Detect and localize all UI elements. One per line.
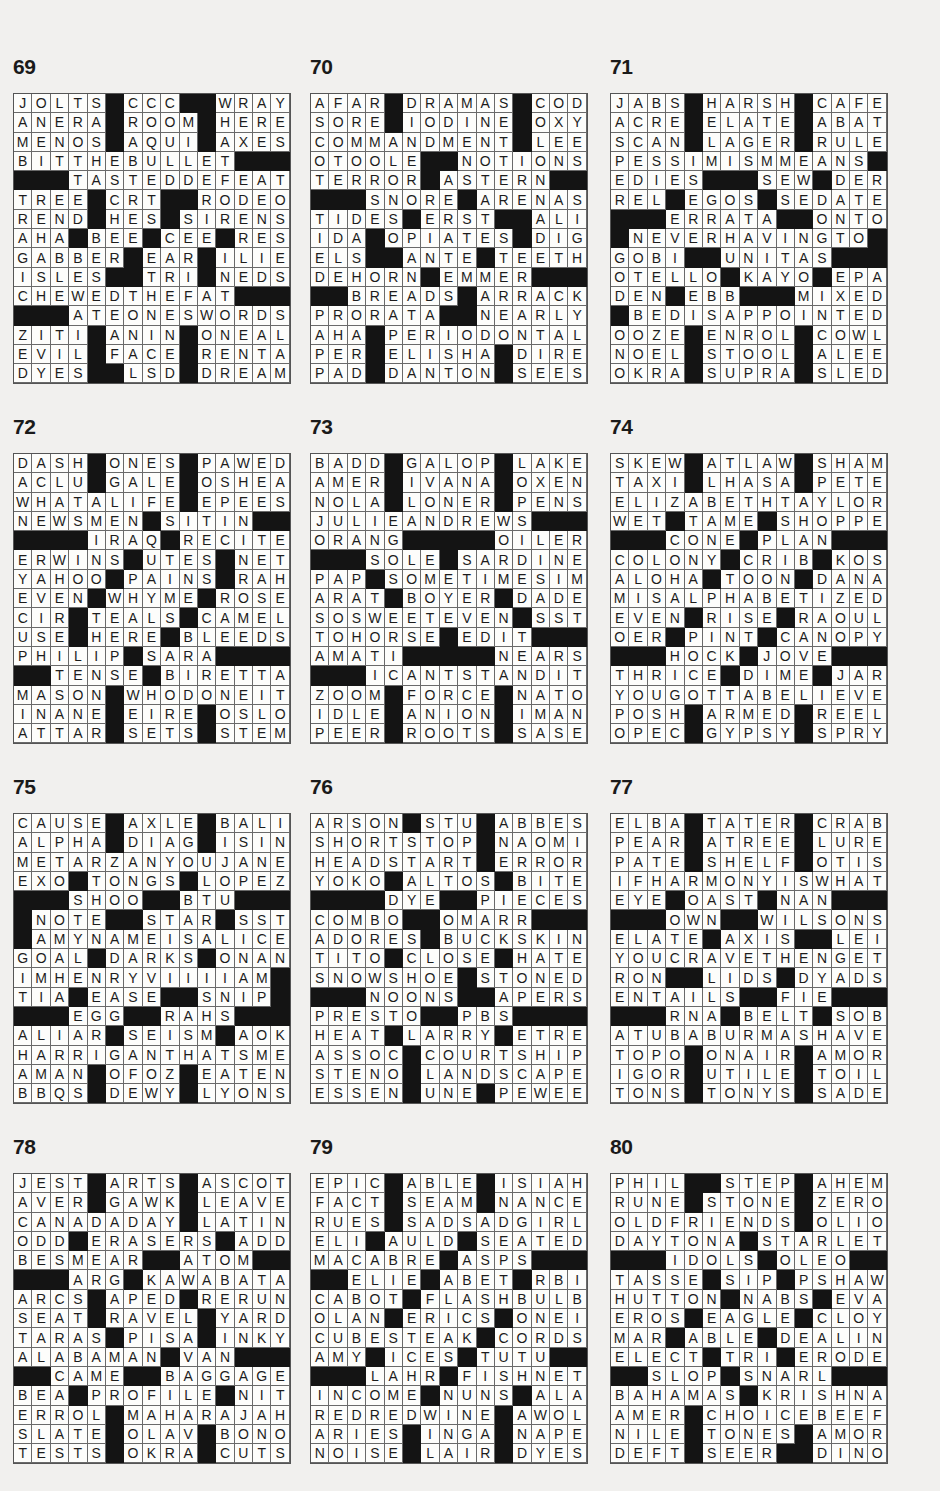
- letter-cell: G: [703, 724, 721, 743]
- letter-cell: A: [648, 133, 666, 152]
- letter-cell: X: [550, 113, 568, 132]
- letter-cell: O: [198, 686, 216, 705]
- letter-cell: R: [124, 1174, 142, 1193]
- letter-cell: O: [868, 1193, 886, 1212]
- letter-cell: I: [758, 248, 776, 267]
- letter-cell: H: [832, 872, 850, 891]
- letter-cell: A: [403, 512, 421, 531]
- black-square: [106, 814, 124, 833]
- letter-cell: T: [235, 1213, 253, 1232]
- black-square: [14, 910, 32, 929]
- letter-cell: L: [161, 814, 179, 833]
- letter-cell: A: [88, 171, 106, 190]
- black-square: [777, 1444, 795, 1463]
- letter-cell: H: [143, 686, 161, 705]
- letter-cell: N: [513, 326, 531, 345]
- black-square: [868, 1367, 886, 1386]
- black-square: [311, 550, 329, 569]
- letter-cell: F: [180, 287, 198, 306]
- black-square: [758, 628, 776, 647]
- letter-cell: E: [385, 930, 403, 949]
- letter-cell: L: [440, 1174, 458, 1193]
- letter-cell: A: [235, 814, 253, 833]
- black-square: [14, 1270, 32, 1289]
- letter-cell: R: [550, 1213, 568, 1232]
- letter-cell: E: [180, 705, 198, 724]
- black-square: [568, 512, 586, 531]
- black-square: [458, 1348, 476, 1367]
- letter-cell: T: [721, 1348, 739, 1367]
- letter-cell: E: [366, 1084, 384, 1103]
- letter-cell: S: [568, 988, 586, 1007]
- letter-cell: A: [366, 1251, 384, 1270]
- letter-cell: A: [198, 647, 216, 666]
- letter-cell: R: [421, 1309, 439, 1328]
- letter-cell: B: [703, 1026, 721, 1045]
- letter-cell: L: [758, 1309, 776, 1328]
- letter-cell: S: [568, 647, 586, 666]
- black-square: [124, 248, 142, 267]
- letter-cell: D: [385, 891, 403, 910]
- letter-cell: W: [106, 589, 124, 608]
- letter-cell: R: [440, 686, 458, 705]
- letter-cell: R: [568, 531, 586, 550]
- letter-cell: L: [795, 686, 813, 705]
- letter-cell: N: [143, 853, 161, 872]
- letter-cell: O: [513, 1328, 531, 1347]
- black-square: [685, 1065, 703, 1084]
- letter-cell: H: [648, 872, 666, 891]
- letter-cell: I: [311, 229, 329, 248]
- letter-cell: D: [777, 1328, 795, 1347]
- letter-cell: P: [51, 833, 69, 852]
- letter-cell: E: [311, 1174, 329, 1193]
- letter-cell: C: [143, 345, 161, 364]
- black-square: [495, 872, 513, 891]
- letter-cell: A: [611, 113, 629, 132]
- letter-cell: P: [703, 589, 721, 608]
- letter-cell: E: [832, 1406, 850, 1425]
- black-square: [629, 210, 647, 229]
- letter-cell: I: [216, 833, 234, 852]
- letter-cell: A: [216, 1406, 234, 1425]
- black-square: [366, 364, 384, 383]
- letter-cell: S: [180, 210, 198, 229]
- letter-cell: A: [421, 306, 439, 325]
- letter-cell: N: [14, 512, 32, 531]
- letter-cell: S: [568, 1328, 586, 1347]
- letter-cell: R: [366, 833, 384, 852]
- black-square: [14, 171, 32, 190]
- letter-cell: T: [568, 1367, 586, 1386]
- black-square: [458, 306, 476, 325]
- letter-cell: O: [69, 133, 87, 152]
- letter-cell: U: [721, 1026, 739, 1045]
- letter-cell: B: [88, 229, 106, 248]
- letter-cell: A: [795, 531, 813, 550]
- letter-cell: T: [440, 872, 458, 891]
- letter-cell: D: [366, 853, 384, 872]
- letter-cell: T: [532, 1026, 550, 1045]
- letter-cell: B: [568, 1290, 586, 1309]
- black-square: [685, 345, 703, 364]
- letter-cell: L: [124, 364, 142, 383]
- letter-cell: O: [721, 190, 739, 209]
- letter-cell: A: [703, 1007, 721, 1026]
- black-square: [758, 512, 776, 531]
- letter-cell: E: [550, 1309, 568, 1328]
- letter-cell: E: [385, 512, 403, 531]
- letter-cell: V: [458, 608, 476, 627]
- letter-cell: V: [143, 1309, 161, 1328]
- letter-cell: E: [235, 171, 253, 190]
- black-square: [421, 1386, 439, 1405]
- black-square: [198, 94, 216, 113]
- letter-cell: L: [629, 814, 647, 833]
- letter-cell: N: [513, 686, 531, 705]
- letter-cell: H: [513, 949, 531, 968]
- letter-cell: E: [385, 608, 403, 627]
- letter-cell: A: [403, 872, 421, 891]
- letter-cell: B: [180, 891, 198, 910]
- letter-cell: T: [69, 910, 87, 929]
- letter-cell: E: [777, 686, 795, 705]
- black-square: [795, 1309, 813, 1328]
- black-square: [271, 1007, 289, 1026]
- letter-cell: V: [850, 1026, 868, 1045]
